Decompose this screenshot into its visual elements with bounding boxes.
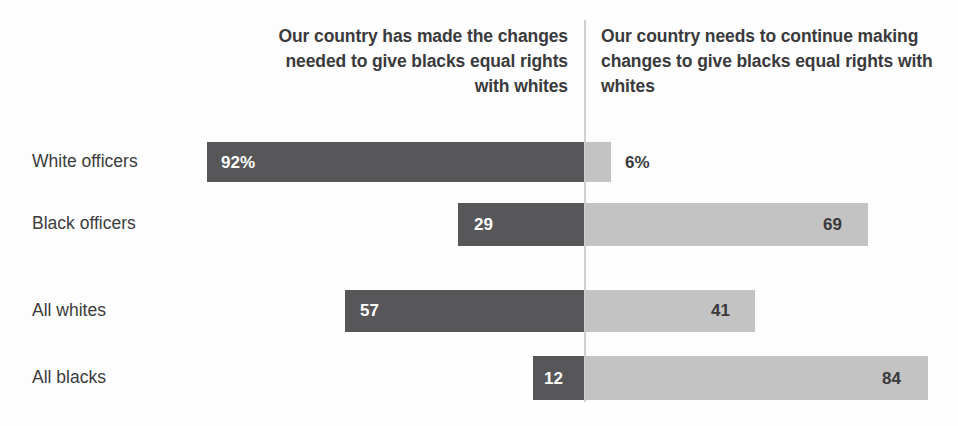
bar-value-negative-black-officers: 29 bbox=[474, 215, 493, 235]
chart-row: All blacks 12 84 bbox=[0, 356, 958, 400]
bar-value-positive-white-officers: 6% bbox=[625, 153, 650, 173]
column-header-right: Our country needs to continue making cha… bbox=[601, 24, 941, 99]
bar-positive-white-officers bbox=[585, 142, 611, 182]
bar-value-positive-black-officers: 69 bbox=[823, 215, 842, 235]
diverging-bar-chart: Our country has made the changes needed … bbox=[0, 0, 958, 426]
row-label-all-blacks: All blacks bbox=[32, 367, 202, 388]
bar-positive-all-blacks bbox=[585, 356, 928, 400]
bar-value-negative-all-whites: 57 bbox=[360, 301, 379, 321]
bar-negative-all-whites bbox=[345, 290, 584, 332]
chart-row: White officers 92% 6% bbox=[0, 142, 958, 182]
bar-negative-white-officers bbox=[207, 142, 584, 182]
row-label-all-whites: All whites bbox=[32, 300, 202, 321]
bar-value-negative-white-officers: 92% bbox=[221, 153, 255, 173]
bar-value-positive-all-whites: 41 bbox=[711, 301, 730, 321]
row-label-black-officers: Black officers bbox=[32, 213, 202, 234]
bar-value-negative-all-blacks: 12 bbox=[544, 369, 563, 389]
bar-value-positive-all-blacks: 84 bbox=[882, 369, 901, 389]
chart-row: Black officers 29 69 bbox=[0, 203, 958, 246]
chart-row: All whites 57 41 bbox=[0, 290, 958, 332]
row-label-white-officers: White officers bbox=[32, 151, 202, 172]
column-header-left: Our country has made the changes needed … bbox=[256, 24, 568, 99]
